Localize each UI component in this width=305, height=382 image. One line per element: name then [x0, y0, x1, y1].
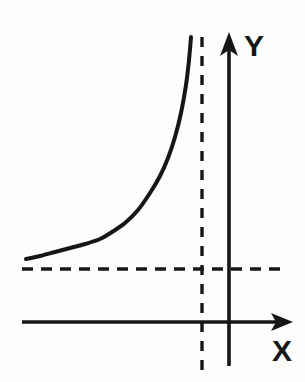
y-axis-label: Y: [244, 29, 264, 62]
x-axis-label: X: [272, 334, 292, 367]
figure-canvas: Y X: [0, 0, 305, 382]
curve-path: [26, 37, 191, 259]
curve-diagram: Y X: [0, 0, 305, 382]
